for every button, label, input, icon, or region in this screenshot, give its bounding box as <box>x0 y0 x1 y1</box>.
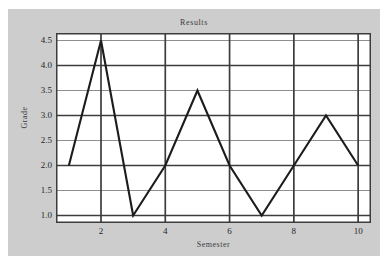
plot-svg <box>56 33 371 223</box>
chart-panel: Results 1.01.52.02.53.03.54.04.5 Grade 2… <box>8 9 380 256</box>
y-tick-label: 4.5 <box>20 36 52 45</box>
x-tick-label: 10 <box>346 226 370 236</box>
x-tick-label: 8 <box>282 226 306 236</box>
y-axis-label: Grade <box>20 88 29 148</box>
x-tick-label: 2 <box>89 226 113 236</box>
x-axis-label: Semester <box>56 240 371 249</box>
y-tick-label: 2.0 <box>20 161 52 170</box>
x-tick-label: 6 <box>218 226 242 236</box>
x-tick-label: 4 <box>153 226 177 236</box>
x-axis-tick-labels: 246810 <box>56 226 371 240</box>
y-tick-label: 1.0 <box>20 211 52 220</box>
y-tick-label: 4.0 <box>20 61 52 70</box>
chart-title: Results <box>8 18 380 27</box>
plot-area <box>56 33 371 223</box>
chart-figure: Results 1.01.52.02.53.03.54.04.5 Grade 2… <box>0 0 389 267</box>
data-series-line <box>69 41 358 216</box>
gridlines-vertical <box>101 33 358 223</box>
y-tick-label: 1.5 <box>20 186 52 195</box>
